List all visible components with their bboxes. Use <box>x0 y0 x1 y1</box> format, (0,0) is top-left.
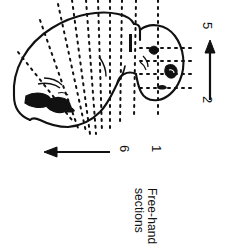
forelimb-line <box>38 83 60 88</box>
head-features <box>140 46 177 89</box>
marker-label-2: 2 <box>199 96 214 103</box>
back-contour <box>14 13 134 96</box>
ear-fill <box>165 65 177 79</box>
section-plane-8 <box>120 0 122 124</box>
abdomen-contour <box>30 119 68 128</box>
head-range-arrow <box>205 40 215 100</box>
free-hand-sections-figure <box>0 0 228 252</box>
trunk-arrow-head <box>44 147 57 157</box>
head-arrow-head <box>205 40 215 53</box>
marker-label-6: 6 <box>116 145 131 152</box>
figure-caption-line-2: sections <box>132 188 145 233</box>
marker-label-5: 5 <box>199 22 214 29</box>
section-plane-9 <box>134 0 136 118</box>
brow-line <box>140 62 146 70</box>
nape-mark <box>129 34 132 52</box>
trunk-section-planes <box>18 0 158 134</box>
shoulder-line <box>100 58 106 76</box>
fetal-limbs <box>25 78 75 113</box>
marker-label-1: 1 <box>148 145 163 152</box>
trunk-range-arrow <box>44 147 110 157</box>
foot-fill <box>63 106 75 113</box>
figure-caption-line-1: Free-hand <box>145 188 158 244</box>
